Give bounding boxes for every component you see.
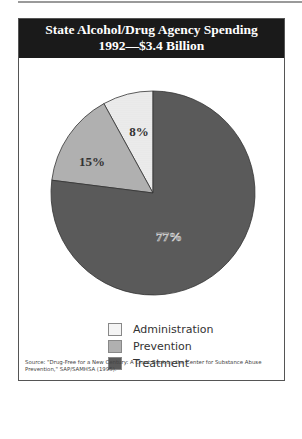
chart-frame: State Alcohol/Drug Agency Spending 1992—… [18, 18, 285, 381]
legend-label: Administration [133, 323, 214, 336]
slice-label-prevention: 15% [79, 154, 105, 169]
legend-label: Prevention [133, 340, 192, 353]
source-note: Source: "Drug-Free for a New Century: A … [25, 359, 283, 373]
legend-item-prevention: Prevention [108, 338, 214, 355]
pie-chart: 8% 15% 77% [19, 19, 286, 319]
slice-label-treatment: 77% [156, 229, 182, 244]
legend-swatch-prevention [108, 340, 122, 353]
legend-item-administration: Administration [108, 321, 214, 338]
legend-swatch-administration [108, 323, 122, 336]
top-rule [18, 1, 302, 3]
slice-label-administration: 8% [129, 124, 149, 139]
